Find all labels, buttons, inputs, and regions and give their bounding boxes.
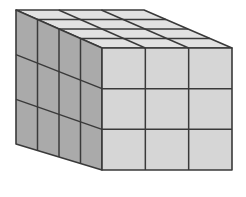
prism-faces bbox=[16, 10, 232, 170]
rectangular-prism-of-cubes bbox=[0, 0, 246, 197]
front-face bbox=[102, 48, 232, 170]
cube-stack-figure bbox=[0, 0, 246, 197]
